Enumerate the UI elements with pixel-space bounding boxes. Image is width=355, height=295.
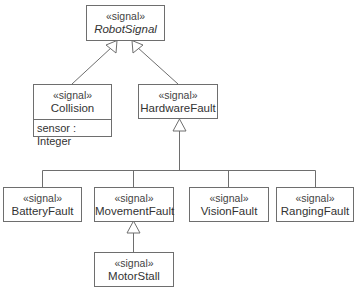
class-name: HardwareFault [139, 102, 217, 115]
stereotype-label: «signal» [139, 89, 217, 102]
stereotype-label: «signal» [87, 10, 164, 23]
class-name: Collision [34, 102, 111, 115]
class-movementfault[interactable]: «signal» MovementFault [94, 187, 174, 222]
class-rangingfault[interactable]: «signal» RangingFault [276, 187, 354, 222]
generalization-line-collision [72, 47, 112, 84]
class-motorstall[interactable]: «signal» MotorStall [94, 252, 174, 287]
class-header: «signal» HardwareFault [139, 85, 217, 119]
class-header: «signal» RangingFault [277, 188, 353, 222]
generalization-arrowhead-icon [173, 119, 186, 131]
class-collision[interactable]: «signal» Collision sensor : Integer [33, 84, 112, 137]
class-hardwarefault[interactable]: «signal» HardwareFault [138, 84, 218, 119]
class-visionfault[interactable]: «signal» VisionFault [189, 187, 269, 222]
stereotype-label: «signal» [95, 257, 173, 270]
attribute-compartment: sensor : Integer [34, 119, 111, 150]
class-header: «signal» RobotSignal [87, 6, 164, 40]
class-name: MovementFault [95, 205, 173, 218]
class-header: «signal» Collision [34, 85, 111, 119]
stereotype-label: «signal» [277, 192, 353, 205]
class-robotsignal[interactable]: «signal» RobotSignal [86, 5, 165, 41]
class-header: «signal» MovementFault [95, 188, 173, 222]
stereotype-label: «signal» [190, 192, 268, 205]
class-name: MotorStall [95, 270, 173, 283]
class-name: VisionFault [190, 205, 268, 218]
generalization-arrowhead-icon [127, 221, 140, 233]
generalization-line-hardwarefault [137, 47, 178, 84]
class-name: RobotSignal [87, 23, 164, 36]
stereotype-label: «signal» [34, 89, 111, 102]
attribute-sensor: sensor : Integer [37, 122, 76, 147]
class-header: «signal» VisionFault [190, 188, 268, 222]
class-header: «signal» MotorStall [95, 253, 173, 287]
class-header: «signal» BatteryFault [4, 188, 81, 222]
class-name: BatteryFault [4, 205, 81, 218]
stereotype-label: «signal» [4, 192, 81, 205]
stereotype-label: «signal» [95, 192, 173, 205]
class-name: RangingFault [277, 205, 353, 218]
class-batteryfault[interactable]: «signal» BatteryFault [3, 187, 82, 222]
